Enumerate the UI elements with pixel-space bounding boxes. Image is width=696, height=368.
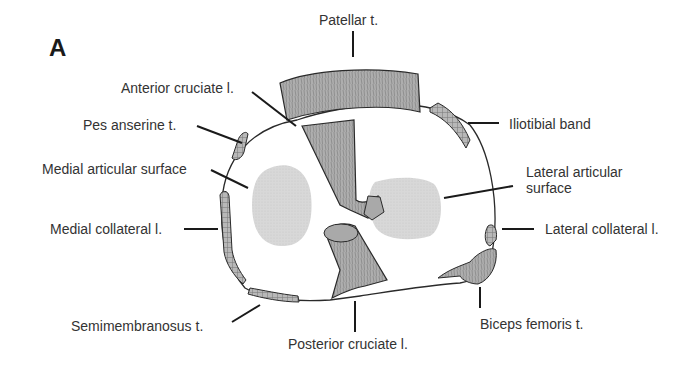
label-patellar-tendon: Patellar t. — [319, 12, 378, 28]
label-posterior-cruciate: Posterior cruciate l. — [288, 336, 408, 352]
label-lateral-collateral: Lateral collateral l. — [545, 221, 659, 237]
label-iliotibial-band: Iliotibial band — [509, 116, 591, 132]
label-medial-collateral: Medial collateral l. — [50, 221, 162, 237]
panel-label: A — [49, 34, 66, 62]
label-anterior-cruciate: Anterior cruciate l. — [121, 80, 234, 96]
label-semimembranosus: Semimembranosus t. — [71, 318, 203, 334]
lateral-collateral-shape — [485, 225, 496, 246]
tibial-plateau-diagram — [0, 0, 696, 368]
label-lateral-articular-surface-line2: surface — [526, 180, 572, 196]
label-lateral-articular-surface-line1: Lateral articular — [526, 164, 623, 180]
posterior-cruciate-cap — [324, 224, 358, 242]
label-biceps-femoris: Biceps femoris t. — [480, 316, 583, 332]
label-pes-anserine: Pes anserine t. — [83, 117, 176, 133]
medial-articular-surface — [252, 165, 312, 246]
label-medial-articular-surface: Medial articular surface — [42, 161, 187, 177]
